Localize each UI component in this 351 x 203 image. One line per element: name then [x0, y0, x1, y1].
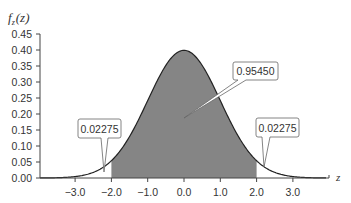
- callout-right-tail: 0.02275: [256, 118, 299, 167]
- normal-distribution-chart: fz(z) z 0.000.050.100.150.200.250.300.35…: [0, 0, 351, 203]
- y-tick-label: 0.00: [12, 172, 33, 184]
- y-tick-label: 0.05: [12, 156, 33, 168]
- x-axis-ticks: −3.0−2.0−1.00.01.02.03.0: [65, 178, 301, 198]
- y-axis-label: fz(z): [8, 10, 29, 27]
- x-tick-label: 0.0: [177, 186, 192, 198]
- y-axis-ticks: 0.000.050.100.150.200.250.300.350.400.45: [12, 28, 40, 184]
- y-tick-label: 0.25: [12, 92, 33, 104]
- x-tick-label: 1.0: [213, 186, 228, 198]
- y-tick-label: 0.35: [12, 60, 33, 72]
- x-axis-label: z: [335, 171, 341, 183]
- y-tick-label: 0.20: [12, 108, 33, 120]
- y-tick-label: 0.45: [12, 28, 33, 40]
- y-tick-label: 0.30: [12, 76, 33, 88]
- callout-left-tail-label: 0.02275: [81, 123, 119, 135]
- callout-center-label: 0.95450: [237, 65, 275, 77]
- x-tick-label: 2.0: [249, 186, 264, 198]
- x-tick-label: 3.0: [286, 186, 301, 198]
- x-tick-label: −3.0: [65, 186, 86, 198]
- plot-area: [40, 50, 326, 178]
- y-tick-label: 0.15: [12, 124, 33, 136]
- x-tick-label: −2.0: [101, 186, 122, 198]
- y-tick-label: 0.40: [12, 44, 33, 56]
- callout-right-tail-label: 0.02275: [259, 122, 297, 134]
- x-tick-label: −1.0: [137, 186, 158, 198]
- y-tick-label: 0.10: [12, 140, 33, 152]
